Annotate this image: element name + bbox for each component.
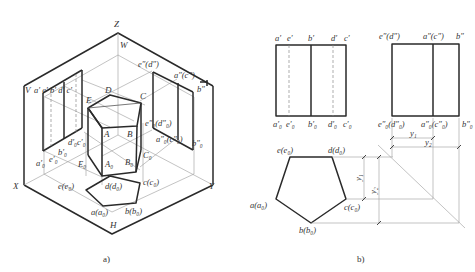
label-v-d0c0: d′₀c′₀ (68, 137, 86, 147)
side-view-rect (392, 44, 459, 116)
label-h-a: a(a₀) (91, 207, 108, 217)
label-v-a0: a′₀ (36, 158, 45, 168)
top-label-d: d(d₀) (328, 145, 345, 155)
projection-diagram: Z W X Y H V a′ e′ b′ d′ c′ a′₀ e′₀ b′₀ d… (0, 0, 475, 272)
label-v: V (25, 85, 32, 95)
dim-label-y2-left: y₂ (368, 187, 378, 195)
dim-label-y1-left: y₁ (353, 174, 363, 182)
guide-bottom (44, 174, 194, 212)
label-E0: E₀ (77, 159, 86, 169)
label-x: X (12, 181, 19, 191)
label-v-b0: b′₀ (58, 147, 67, 157)
front-bot-a0: a′₀ (273, 119, 282, 129)
side-top-b: b″ (456, 31, 464, 41)
dim-label-y1-top: y₁ (409, 128, 417, 138)
label-y: Y (209, 181, 215, 191)
front-bot-c0: c′₀ (343, 119, 352, 129)
front-top-d: d′ (331, 33, 337, 43)
caption-a: a) (103, 254, 110, 264)
ray (64, 86, 134, 121)
frame-h-bottom (24, 185, 213, 234)
side-bot-b: b″₀ (462, 119, 473, 129)
label-B0: B₀ (125, 157, 133, 167)
side-bot-ac: a″₀(c″₀) (421, 119, 448, 129)
label-w-ed0: e″₀(d″₀) (145, 118, 172, 128)
front-bot-d0: d′₀ (328, 119, 337, 129)
top-label-a: a(a₀) (250, 200, 267, 210)
label-w-ac0: a″₀(c″₀) (156, 134, 183, 144)
label-v-top: a′ e′ b′ d′ c′ (34, 85, 72, 95)
label-w-ed: e″(d″) (138, 59, 159, 69)
side-top-ac: a″(c″) (423, 31, 444, 41)
label-C: C (140, 91, 147, 101)
label-h-b: b(b₀) (125, 206, 142, 216)
label-B: B (127, 129, 133, 139)
front-top-e: e′ (287, 33, 293, 43)
label-v-e0: e′₀ (49, 154, 58, 164)
side-top-ed: e″(d″) (379, 31, 400, 41)
label-D: D (104, 85, 112, 95)
front-bot-e0: e′₀ (286, 119, 295, 129)
label-h-d: d(d₀) (105, 181, 122, 191)
label-h: H (109, 220, 117, 230)
label-C0: C₀ (143, 150, 152, 160)
miter-line (378, 145, 465, 228)
label-E: E (85, 95, 92, 105)
label-w-ac: a″(c″) (174, 70, 195, 80)
front-top-c: c′ (344, 33, 350, 43)
top-view-pentagon (276, 157, 346, 223)
dim-label-y2-top: y₂ (424, 137, 432, 147)
top-label-e: e(e₀) (277, 145, 293, 155)
label-A0: A₀ (104, 159, 113, 169)
label-w-b0: b″₀ (192, 138, 203, 148)
front-top-a: a′ (275, 33, 281, 43)
label-h-e: e(e₀) (58, 181, 74, 191)
label-w: W (120, 40, 129, 50)
label-h-c: c(c₀) (143, 177, 159, 187)
dimension-ticks (362, 136, 461, 225)
front-bot-b0: b′₀ (308, 119, 317, 129)
caption-b: b) (357, 254, 365, 264)
side-bot-ed: e″₀(d″₀) (378, 119, 405, 129)
label-z: Z (114, 19, 120, 29)
label-A: A (103, 129, 110, 139)
label-w-b: b″ (197, 84, 205, 94)
front-top-b: b′ (308, 33, 314, 43)
figure-b-orthographic: a′ e′ b′ d′ c′ a′₀ e′₀ b′₀ d′₀ c′₀ e″(d″… (250, 31, 473, 264)
figure-a-axonometric: Z W X Y H V a′ e′ b′ d′ c′ a′₀ e′₀ b′₀ d… (12, 19, 215, 264)
top-label-b: b(b₀) (299, 225, 316, 235)
top-label-c: c(c₀) (344, 202, 360, 212)
